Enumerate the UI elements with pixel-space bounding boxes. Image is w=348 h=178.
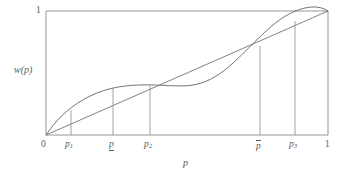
tick-label-p-upper-base: p xyxy=(256,140,261,151)
weighting-function-curve xyxy=(46,7,328,135)
tick-label-p3-subscript: 3 xyxy=(294,142,297,149)
x-axis-max-label: 1 xyxy=(325,140,330,150)
tick-label-p2: p2 xyxy=(144,140,152,150)
identity-diagonal-line xyxy=(46,11,328,135)
tick-label-p-lower: p xyxy=(109,140,114,151)
tick-label-p3: p3 xyxy=(289,140,297,150)
tick-label-p2-subscript: 2 xyxy=(149,142,152,149)
tick-label-p-upper: p xyxy=(256,140,261,151)
plot-canvas xyxy=(0,0,348,178)
probability-weighting-function-figure: 1 w(p) 0 p1 p p2 p p3 1 p xyxy=(0,0,348,178)
tick-label-p1: p1 xyxy=(65,140,73,150)
y-axis-title: w(p) xyxy=(14,65,32,75)
reference-lines-group xyxy=(71,21,295,135)
tick-label-p-lower-base: p xyxy=(109,140,114,151)
y-axis-max-label: 1 xyxy=(36,6,41,16)
tick-label-p1-subscript: 1 xyxy=(70,142,73,149)
x-axis-origin-label: 0 xyxy=(41,140,46,150)
x-axis-title: p xyxy=(183,158,188,168)
